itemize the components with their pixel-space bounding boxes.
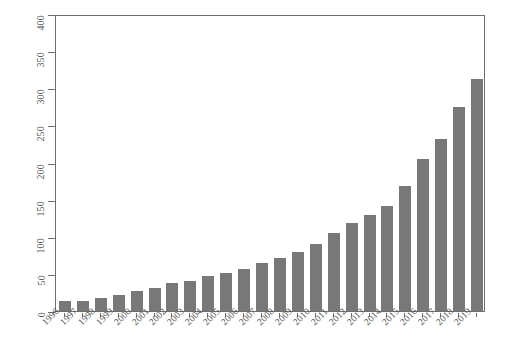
bar	[435, 139, 447, 311]
bar	[346, 223, 358, 311]
y-tick-mark	[48, 15, 55, 16]
y-tick-label: 200	[36, 164, 47, 180]
bar	[202, 276, 214, 311]
plot-area	[55, 15, 485, 312]
bar	[256, 263, 268, 311]
bar	[399, 186, 411, 311]
bar	[274, 258, 286, 311]
y-tick-label: 150	[36, 201, 47, 217]
y-tick-label: 100	[36, 238, 47, 254]
bar	[417, 159, 429, 311]
y-tick-mark	[48, 126, 55, 127]
bar	[381, 206, 393, 311]
y-tick-mark	[48, 52, 55, 53]
x-tick-mark	[476, 313, 477, 317]
bar	[364, 215, 376, 311]
bar	[310, 244, 322, 311]
bars-layer	[56, 16, 484, 311]
bar	[471, 79, 483, 311]
y-tick-label: 50	[36, 275, 47, 285]
bar	[184, 281, 196, 311]
y-tick-mark	[48, 89, 55, 90]
y-tick-label: 400	[36, 15, 47, 31]
bar	[292, 252, 304, 311]
y-tick-label: 300	[36, 89, 47, 105]
y-tick-mark	[48, 238, 55, 239]
y-tick-mark	[48, 164, 55, 165]
y-tick-mark	[48, 275, 55, 276]
bar	[238, 269, 250, 311]
bar	[220, 273, 232, 311]
y-axis: 050100150200250300350400	[0, 0, 55, 362]
x-axis: 1996199719981999200020012002200320042005…	[55, 313, 485, 362]
bar	[453, 107, 465, 311]
bar	[328, 233, 340, 311]
y-tick-label: 350	[36, 52, 47, 68]
y-tick-mark	[48, 201, 55, 202]
bar-chart-figure: 050100150200250300350400 199619971998199…	[0, 0, 509, 362]
y-tick-label: 250	[36, 126, 47, 142]
